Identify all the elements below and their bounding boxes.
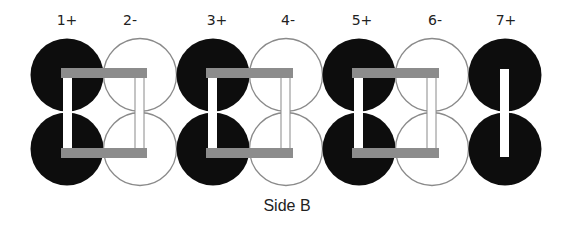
cell-label-4: 4- xyxy=(281,12,295,28)
cell-label-1: 1+ xyxy=(57,12,78,28)
cell-label-7: 7+ xyxy=(496,12,517,28)
diagram-canvas: 1+ 2- 3+ 4- 5+ 6- 7+ Side B xyxy=(0,0,568,226)
link-1-2-top-bar xyxy=(61,68,147,78)
link-1-2-negative-post xyxy=(135,74,144,152)
cell-label-6: 6- xyxy=(428,12,442,28)
link-5-6-top-bar xyxy=(352,68,439,78)
link-1-2-bottom-bar xyxy=(61,148,147,158)
link-3-4-positive-post xyxy=(208,74,217,152)
link-3-4-top-bar xyxy=(206,68,293,78)
terminal-post-7 xyxy=(500,69,509,157)
link-5-6-negative-post xyxy=(427,74,436,152)
link-3-4-bottom-bar xyxy=(206,148,293,158)
link-5-6-bottom-bar xyxy=(352,148,439,158)
cell-labels: 1+ 2- 3+ 4- 5+ 6- 7+ xyxy=(57,12,517,28)
link-1-2-positive-post xyxy=(63,74,72,152)
cell-label-5: 5+ xyxy=(352,12,373,28)
diagram-caption: Side B xyxy=(263,197,310,214)
link-3-4-negative-post xyxy=(281,74,290,152)
cell-label-2: 2- xyxy=(123,12,137,28)
cell-label-3: 3+ xyxy=(207,12,228,28)
link-5-6-positive-post xyxy=(354,74,363,152)
battery-cell-diagram: 1+ 2- 3+ 4- 5+ 6- 7+ Side B xyxy=(0,0,568,226)
